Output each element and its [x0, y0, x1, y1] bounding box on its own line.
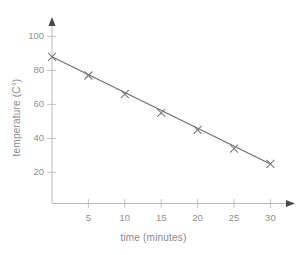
- y-tick-label: 40: [20, 132, 44, 143]
- x-axis-title: time (minutes): [0, 232, 307, 243]
- axes-group: [48, 17, 295, 207]
- x-tick-label: 30: [260, 212, 280, 223]
- trend-line: [52, 57, 270, 164]
- y-tick-label: 20: [20, 166, 44, 177]
- x-tick-label: 25: [224, 212, 244, 223]
- y-axis-title: temperature (C°): [11, 58, 22, 178]
- x-axis-arrowhead: [286, 200, 295, 207]
- y-tick-label: 60: [20, 98, 44, 109]
- y-tick-label: 100: [20, 30, 44, 41]
- y-axis-arrowhead: [48, 17, 55, 26]
- x-tick-label: 5: [78, 212, 98, 223]
- x-tick-label: 15: [151, 212, 171, 223]
- chart-container: 100 80 60 40 20 5 10 15 20 25 30 time (m…: [0, 0, 307, 255]
- y-tick-label: 80: [20, 64, 44, 75]
- data-point-marker: [266, 160, 274, 168]
- x-tick-label: 20: [188, 212, 208, 223]
- x-tick-label: 10: [115, 212, 135, 223]
